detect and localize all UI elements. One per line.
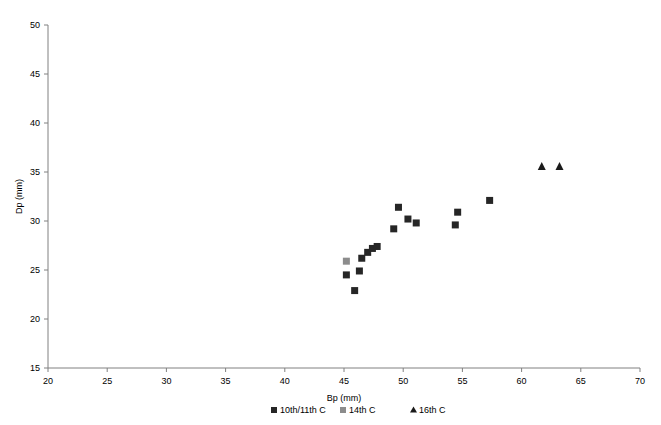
data-point-triangle [555, 162, 563, 170]
data-point-square [486, 197, 493, 204]
legend-marker-square [340, 407, 346, 413]
y-tick-label: 20 [30, 314, 40, 324]
legend-marker-square [271, 407, 277, 413]
y-tick-label: 30 [30, 216, 40, 226]
y-tick-label: 25 [30, 265, 40, 275]
data-point-square [356, 267, 363, 274]
x-tick-label: 25 [102, 376, 112, 386]
x-tick-label: 45 [339, 376, 349, 386]
x-tick-label: 65 [576, 376, 586, 386]
data-point-square [452, 221, 459, 228]
y-tick-label: 45 [30, 69, 40, 79]
data-point-square [351, 287, 358, 294]
data-point-square [454, 209, 461, 216]
x-tick-label: 60 [517, 376, 527, 386]
chart-canvas: 15202530354045502025303540455055606570Bp… [0, 0, 661, 425]
data-point-square [343, 271, 350, 278]
data-point-square [390, 225, 397, 232]
data-point-triangle [538, 162, 546, 170]
data-point-square [343, 258, 350, 265]
y-tick-label: 15 [30, 363, 40, 373]
x-tick-label: 30 [161, 376, 171, 386]
legend-marker-triangle [410, 407, 417, 413]
data-point-square [395, 204, 402, 211]
chart-legend: 10th/11th C14th C16th C [271, 405, 446, 415]
x-tick-label: 55 [457, 376, 467, 386]
x-tick-label: 50 [398, 376, 408, 386]
y-tick-label: 35 [30, 167, 40, 177]
axes [44, 25, 640, 372]
legend-item-label: 14th C [349, 405, 376, 415]
data-point-square [404, 216, 411, 223]
x-axis-title: Bp (mm) [327, 393, 362, 403]
x-tick-label: 35 [221, 376, 231, 386]
y-axis-title: Dp (mm) [14, 179, 24, 214]
y-tick-label: 50 [30, 20, 40, 30]
legend-item-label: 10th/11th C [280, 405, 326, 415]
axis-labels: 15202530354045502025303540455055606570Bp… [14, 20, 645, 403]
scatter-chart: 15202530354045502025303540455055606570Bp… [0, 0, 661, 425]
x-tick-label: 70 [635, 376, 645, 386]
x-tick-label: 40 [280, 376, 290, 386]
data-point-square [413, 219, 420, 226]
x-tick-label: 20 [43, 376, 53, 386]
legend-item-label: 16th C [419, 405, 446, 415]
y-tick-label: 40 [30, 118, 40, 128]
data-points [343, 162, 564, 294]
data-point-square [374, 243, 381, 250]
